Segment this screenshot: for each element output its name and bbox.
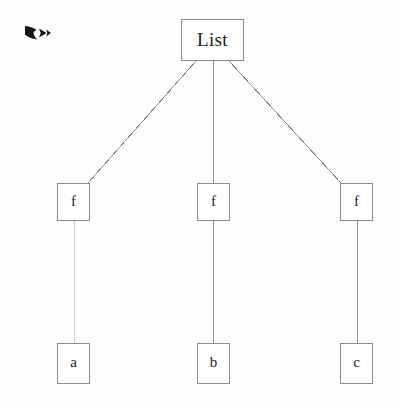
node-f-right-label: f (354, 194, 359, 210)
node-f-middle-label: f (211, 194, 216, 210)
black-right-arrow-bullet-icon (24, 25, 52, 41)
node-f-middle: f (197, 183, 230, 221)
node-f-left-label: f (71, 194, 76, 210)
node-a: a (57, 343, 90, 384)
node-b-label: b (210, 355, 218, 372)
node-c: c (340, 343, 373, 384)
node-list: List (181, 19, 244, 61)
node-list-label: List (197, 30, 228, 51)
edge-list-to-f-left (88, 61, 196, 183)
diagram-canvas: List f f f a b c (0, 0, 397, 408)
edge-list-to-f-right (229, 61, 341, 183)
node-a-label: a (70, 355, 77, 372)
node-f-right: f (340, 183, 373, 221)
node-c-label: c (353, 355, 360, 372)
node-f-left: f (57, 183, 90, 221)
node-b: b (197, 343, 230, 384)
